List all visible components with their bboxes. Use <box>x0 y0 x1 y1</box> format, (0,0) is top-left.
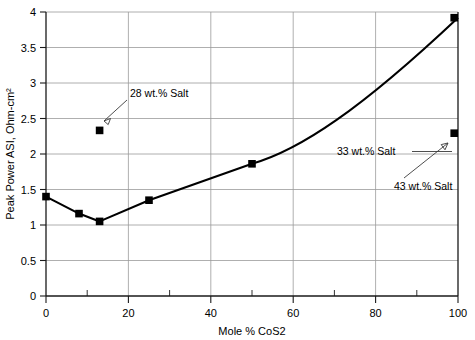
y-tick-label: 2.5 <box>21 113 36 125</box>
x-tick-label: 60 <box>287 307 299 319</box>
x-tick-label: 20 <box>122 307 134 319</box>
annotation-label: 33 wt.% Salt <box>337 145 395 157</box>
y-tick-label: 2 <box>30 148 36 160</box>
chart-container: 4 3.5 3 2.5 2 1.5 1 0.5 0 0 20 40 60 80 … <box>0 0 475 340</box>
data-point-marker <box>96 218 104 226</box>
data-point-marker <box>248 160 256 168</box>
y-tick-label: 1.5 <box>21 184 36 196</box>
data-point-marker <box>96 127 104 135</box>
annotation-label: 43 wt.% Salt <box>394 180 452 192</box>
x-tick-label: 80 <box>369 307 381 319</box>
x-tick-label: 0 <box>43 307 49 319</box>
series-marker-28wt <box>96 127 104 135</box>
y-tick-label: 1 <box>30 219 36 231</box>
x-tick-label: 40 <box>205 307 217 319</box>
y-axis-title: Peak Power ASI, Ohm-cm² <box>4 88 16 220</box>
line-chart: 4 3.5 3 2.5 2 1.5 1 0.5 0 0 20 40 60 80 … <box>0 0 475 340</box>
annotation-label: 28 wt.% Salt <box>130 87 188 99</box>
y-tick-label: 0 <box>30 290 36 302</box>
x-tick-label: 100 <box>449 307 467 319</box>
data-point-marker <box>75 210 83 218</box>
y-tick-label: 0.5 <box>21 255 36 267</box>
series-marker-43wt <box>450 129 458 137</box>
data-point-marker <box>450 129 458 137</box>
y-tick-label: 4 <box>30 6 36 18</box>
y-tick-label: 3.5 <box>21 42 36 54</box>
data-point-marker <box>145 196 153 204</box>
data-point-marker <box>42 193 50 201</box>
data-point-marker <box>450 14 458 22</box>
x-axis-title: Mole % CoS2 <box>218 325 285 337</box>
y-tick-label: 3 <box>30 77 36 89</box>
